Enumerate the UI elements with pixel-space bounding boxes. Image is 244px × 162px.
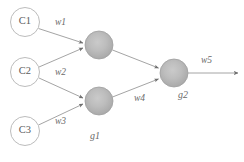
edge-c1-h1 bbox=[39, 29, 84, 44]
hidden-node-bottom[interactable] bbox=[85, 87, 113, 115]
diagram-canvas: C1 C2 C3 w1 w2 w3 w4 w5 g1 g2 bbox=[0, 0, 244, 162]
input-node-label-c2: C2 bbox=[12, 66, 38, 77]
group-label-g1: g1 bbox=[90, 131, 100, 141]
edge-label-w5: w5 bbox=[201, 56, 212, 66]
input-node-label-c1: C1 bbox=[12, 16, 38, 27]
edge-label-w1: w1 bbox=[55, 18, 66, 28]
edge-label-w2: w2 bbox=[55, 68, 66, 78]
edge-h1-g2 bbox=[113, 50, 159, 68]
hidden-node-top[interactable] bbox=[85, 31, 113, 59]
edge-label-w3: w3 bbox=[55, 117, 66, 127]
group-label-g2: g2 bbox=[178, 90, 188, 100]
edge-c2-h2 bbox=[39, 78, 83, 98]
output-node-g2[interactable] bbox=[160, 59, 188, 87]
edge-c2-h1 bbox=[39, 48, 83, 67]
edge-label-w4: w4 bbox=[134, 94, 145, 104]
input-node-label-c3: C3 bbox=[12, 125, 38, 136]
